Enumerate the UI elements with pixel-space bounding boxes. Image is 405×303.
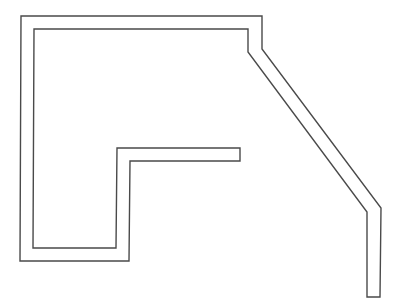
wall-outline-diagram bbox=[0, 0, 405, 303]
wall-outline bbox=[20, 16, 381, 297]
